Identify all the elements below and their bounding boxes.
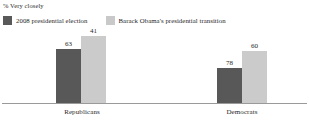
- legend-item-election: 2008 presidential election: [3, 16, 88, 25]
- category-label-republicans: Republicans: [27, 107, 137, 117]
- bar-group-republicans: 63 41: [56, 34, 106, 103]
- bar-democrats-election: [217, 68, 242, 103]
- chart-baseline-axis: [2, 103, 307, 104]
- legend-item-transition: Barack Obama's presidential transition: [106, 16, 226, 25]
- chart-legend: 2008 presidential election Barack Obama'…: [3, 15, 226, 26]
- dark-swatch-icon: [3, 16, 12, 25]
- bar-wrap: 41: [81, 34, 106, 103]
- chart-plot-area: 63 41 78 60: [0, 34, 309, 104]
- bar-group-democrats: 78 60: [217, 34, 267, 103]
- bar-republicans-election: [56, 49, 81, 103]
- bar-value-label: 78: [217, 59, 242, 67]
- category-label-democrats: Democrats: [187, 107, 297, 117]
- bar-value-label: 63: [56, 40, 81, 48]
- bar-wrap: 60: [242, 34, 267, 103]
- bar-wrap: 78: [217, 34, 242, 103]
- bar-democrats-transition: [242, 51, 267, 103]
- bar-value-label: 41: [81, 27, 106, 35]
- chart-category-labels: Republicans Democrats: [0, 107, 309, 119]
- bar-value-label: 60: [242, 42, 267, 50]
- bar-wrap: 63: [56, 34, 81, 103]
- bar-republicans-transition: [81, 36, 106, 103]
- legend-label-transition: Barack Obama's presidential transition: [119, 16, 226, 25]
- chart-axis-title: % Very closely: [3, 2, 44, 10]
- legend-label-election: 2008 presidential election: [16, 16, 88, 25]
- light-swatch-icon: [106, 16, 115, 25]
